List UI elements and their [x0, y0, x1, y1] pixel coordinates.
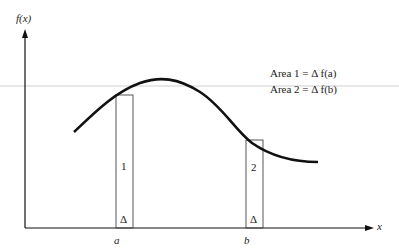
rect1-label: 1: [121, 160, 127, 172]
area-approximation-diagram: f(x) x a b 1 2 Δ Δ Area 1 = Δ f(a) Area …: [0, 0, 399, 249]
legend-area-2: Area 2 = Δ f(b): [270, 83, 337, 95]
x-axis-label: x: [377, 220, 382, 232]
rect2-label: 2: [251, 161, 257, 173]
delta-2-label: Δ: [250, 213, 257, 225]
y-axis-arrow-icon: [22, 29, 28, 38]
diagram-graphics: [0, 0, 399, 249]
delta-1-label: Δ: [120, 213, 127, 225]
y-axis-label: f(x): [16, 12, 31, 24]
point-a-label: a: [114, 234, 120, 246]
x-axis-arrow-icon: [365, 225, 374, 231]
legend-area-1: Area 1 = Δ f(a): [270, 67, 336, 79]
point-b-label: b: [244, 234, 250, 246]
